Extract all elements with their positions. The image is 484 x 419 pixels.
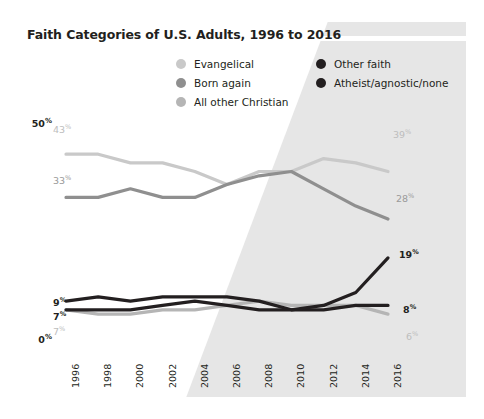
- legend-label: Other faith: [334, 58, 391, 70]
- x-axis-tick-2016: 2016: [392, 364, 403, 388]
- data-label-born-again-end: 28%: [396, 192, 414, 204]
- y-axis-tick-unit: %: [45, 333, 52, 341]
- x-axis-tick-1998: 1998: [102, 364, 113, 388]
- data-label-all-other-christian-start: 7%: [53, 325, 65, 337]
- legend-dot-icon: [176, 97, 186, 107]
- legend-column-left: Evangelical Born again All other Christi…: [176, 55, 288, 112]
- data-label-unit: %: [412, 330, 418, 338]
- y-axis-tick-0: 0%: [18, 333, 52, 345]
- y-axis-tick-value: 50: [32, 118, 45, 129]
- page-title: Faith Categories of U.S. Adults, 1996 to…: [27, 27, 341, 42]
- legend-item-all-other-christian[interactable]: All other Christian: [176, 93, 288, 111]
- legend-label: All other Christian: [194, 96, 288, 108]
- data-label-unit: %: [60, 296, 67, 304]
- legend-dot-icon: [176, 59, 186, 69]
- x-axis-tick-2012: 2012: [328, 364, 339, 388]
- data-label-value: 7: [53, 311, 60, 322]
- data-label-unit: %: [412, 248, 419, 256]
- data-label-unit: %: [410, 303, 417, 311]
- y-axis-tick-value: 0: [38, 334, 45, 345]
- data-label-atheist-end: 19%: [399, 248, 419, 260]
- data-label-other-faith-end: 8%: [403, 303, 416, 315]
- legend-dot-icon: [316, 59, 326, 69]
- x-axis-tick-2014: 2014: [360, 364, 371, 388]
- x-axis-tick-2000: 2000: [134, 364, 145, 388]
- data-label-unit: %: [65, 123, 71, 131]
- x-axis-tick-1996: 1996: [70, 364, 81, 388]
- legend-dot-icon: [176, 78, 186, 88]
- x-axis-tick-2004: 2004: [199, 364, 210, 388]
- legend-item-evangelical[interactable]: Evangelical: [176, 55, 288, 73]
- data-label-unit: %: [59, 325, 65, 333]
- data-label-all-other-christian-end: 6%: [406, 330, 418, 342]
- data-label-born-again-start: 33%: [53, 174, 71, 186]
- x-axis-tick-2002: 2002: [167, 364, 178, 388]
- data-label-value: 19: [399, 249, 412, 260]
- legend-label: Evangelical: [194, 58, 254, 70]
- x-axis-tick-2006: 2006: [231, 364, 242, 388]
- legend-item-born-again[interactable]: Born again: [176, 74, 288, 92]
- legend-dot-icon: [316, 78, 326, 88]
- x-axis-tick-2010: 2010: [295, 364, 306, 388]
- data-label-atheist-start: 7%: [53, 310, 66, 322]
- data-label-unit: %: [408, 192, 414, 200]
- data-label-unit: %: [405, 128, 411, 136]
- legend-label: Born again: [194, 77, 251, 89]
- chart-root: Faith Categories of U.S. Adults, 1996 to…: [0, 0, 484, 419]
- data-label-evangelical-end: 39%: [393, 128, 411, 140]
- data-label-value: 28: [396, 193, 408, 204]
- data-label-value: 33: [53, 175, 65, 186]
- legend-item-atheist[interactable]: Atheist/agnostic/none: [316, 74, 448, 92]
- data-label-value: 43: [53, 124, 65, 135]
- legend-item-other-faith[interactable]: Other faith: [316, 55, 448, 73]
- y-axis-tick-50: 50%: [18, 117, 52, 129]
- data-label-value: 8: [403, 304, 410, 315]
- legend-column-right: Other faith Atheist/agnostic/none: [316, 55, 448, 93]
- data-label-other-faith-start: 9%: [53, 296, 66, 308]
- data-label-value: 9: [53, 297, 60, 308]
- data-label-value: 39: [393, 129, 405, 140]
- x-axis-tick-2008: 2008: [263, 364, 274, 388]
- data-label-unit: %: [65, 174, 71, 182]
- legend-label: Atheist/agnostic/none: [334, 77, 448, 89]
- data-label-evangelical-start: 43%: [53, 123, 71, 135]
- y-axis-tick-unit: %: [45, 117, 52, 125]
- data-label-unit: %: [60, 310, 67, 318]
